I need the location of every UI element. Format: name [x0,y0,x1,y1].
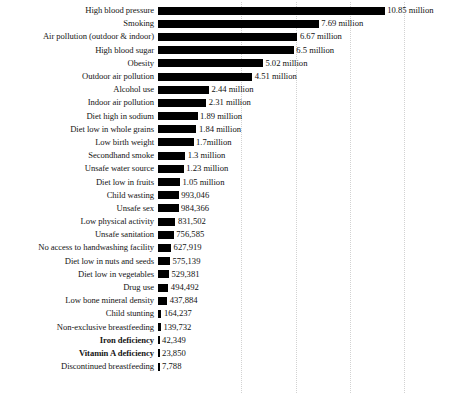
bar-track: 7.69 million [158,17,462,30]
value-label: 2.31 million [206,98,251,107]
bar-track: 1.05 million [158,175,462,188]
bar-track: 831,502 [158,215,462,228]
chart-bar-row: Secondhand smoke1.3 million [0,149,462,162]
bar-track: 7,788 [158,360,462,373]
value-label: 1.23 million [184,164,229,173]
bar-track: 529,381 [158,268,462,281]
bar-chart: High blood pressure10.85 millionSmoking7… [0,0,462,407]
category-label: Child stunting [0,309,158,318]
bar-track: 23,850 [158,347,462,360]
value-label: 756,585 [174,230,204,239]
category-label: Unsafe sanitation [0,230,158,239]
value-label: 1.89 million [198,112,243,121]
bar [158,112,198,120]
bar [158,73,252,81]
chart-bar-row: Iron deficiency42,349 [0,334,462,347]
chart-bar-row: Unsafe sanitation756,585 [0,228,462,241]
category-label: High blood pressure [0,6,158,15]
value-label: 2.44 million [209,85,254,94]
category-label: Unsafe sex [0,204,158,213]
chart-bar-row: Air pollution (outdoor & indoor)6.67 mil… [0,30,462,43]
bar [158,33,297,41]
bar-track: 627,919 [158,241,462,254]
value-label: 23,850 [160,349,186,358]
bar [158,59,263,67]
category-label: Low physical activity [0,217,158,226]
category-label: Air pollution (outdoor & indoor) [0,32,158,41]
category-label: Unsafe water source [0,164,158,173]
value-label: 437,884 [167,296,197,305]
bar [158,270,169,278]
value-label: 6.67 million [297,32,342,41]
chart-bar-row: Diet low in whole grains1.84 million [0,123,462,136]
bar-track: 984,366 [158,202,462,215]
bar-track: 2.44 million [158,83,462,96]
chart-bar-row: Unsafe water source1.23 million [0,162,462,175]
chart-bar-row: Diet low in nuts and seeds575,139 [0,255,462,268]
bar [158,99,206,107]
value-label: 7,788 [160,362,182,371]
bar-track: 6.5 million [158,44,462,57]
value-label: 993,046 [179,191,209,200]
bar-track: 437,884 [158,294,462,307]
bar [158,178,180,186]
bar [158,204,179,212]
category-label: Iron deficiency [0,336,158,345]
bar [158,191,179,199]
value-label: 984,366 [179,204,209,213]
bar-track: 10.85 million [158,4,462,17]
bar [158,125,196,133]
category-label: Diet low in vegetables [0,270,158,279]
chart-bar-row: Low birth weight1.7million [0,136,462,149]
value-label: 1.84 million [196,125,241,134]
bar-track: 1.7million [158,136,462,149]
category-label: Indoor air pollution [0,98,158,107]
value-label: 1.3 million [185,151,225,160]
chart-bar-row: Obesity5.02 million [0,57,462,70]
bar [158,297,167,305]
bar [158,7,385,15]
bar-track: 42,349 [158,334,462,347]
bar-track: 575,139 [158,255,462,268]
chart-bar-row: Discontinued breastfeeding7,788 [0,360,462,373]
value-label: 1.7million [194,138,232,147]
chart-bar-row: No access to handwashing facility627,919 [0,241,462,254]
bar [158,284,168,292]
value-label: 42,349 [160,336,186,345]
category-label: High blood sugar [0,46,158,55]
bar-track: 1.23 million [158,162,462,175]
category-label: Smoking [0,19,158,28]
category-label: Outdoor air pollution [0,72,158,81]
category-label: Child wasting [0,191,158,200]
chart-bar-row: Vitamin A deficiency23,850 [0,347,462,360]
bar-track: 164,237 [158,307,462,320]
bar-track: 1.89 million [158,110,462,123]
category-label: Low birth weight [0,138,158,147]
chart-bar-row: Diet low in vegetables529,381 [0,268,462,281]
chart-bar-row: Unsafe sex984,366 [0,202,462,215]
category-label: Low bone mineral density [0,296,158,305]
value-label: 6.5 million [294,46,334,55]
value-label: 494,492 [168,283,198,292]
category-label: Discontinued breastfeeding [0,362,158,371]
category-label: No access to handwashing facility [0,243,158,252]
bar-track: 993,046 [158,189,462,202]
chart-bar-row: Non-exclusive breastfeeding139,732 [0,321,462,334]
chart-bar-row: High blood pressure10.85 million [0,4,462,17]
bar-track: 494,492 [158,281,462,294]
category-label: Non-exclusive breastfeeding [0,323,158,332]
bar [158,138,194,146]
chart-bar-row: Diet low in fruits1.05 million [0,175,462,188]
value-label: 831,502 [175,217,205,226]
chart-bar-row: Drug use494,492 [0,281,462,294]
bar-track: 6.67 million [158,30,462,43]
category-label: Alcohol use [0,85,158,94]
value-label: 5.02 million [263,59,308,68]
bar-track: 139,732 [158,321,462,334]
bar [158,257,170,265]
category-label: Diet low in nuts and seeds [0,257,158,266]
value-label: 164,237 [161,309,191,318]
chart-bar-row: Child stunting164,237 [0,307,462,320]
category-label: Diet high in sodium [0,112,158,121]
bar-track: 2.31 million [158,96,462,109]
